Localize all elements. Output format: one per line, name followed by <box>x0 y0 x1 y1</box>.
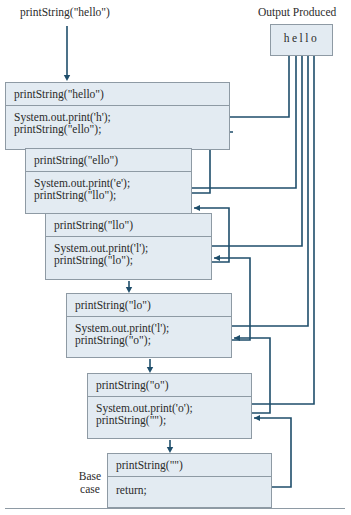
frame-line-print: System.out.print('l'); <box>67 322 231 334</box>
output-title: Output Produced <box>258 6 336 19</box>
return-wire-empty-arrowhead <box>254 415 260 421</box>
frame-line-print: System.out.print('h'); <box>6 111 229 123</box>
output-box: hello <box>270 24 333 56</box>
frame-line-recurse: printString(""); <box>88 414 251 426</box>
frame-line-recurse: printString("llo"); <box>26 189 191 201</box>
frame-header: printString("") <box>108 454 271 477</box>
frame-line-recurse: printString("lo"); <box>46 254 211 266</box>
frame-line-print: System.out.print('o'); <box>88 402 251 414</box>
call-frame-empty: printString("") return; <box>107 453 272 508</box>
frame-header: printString("ello") <box>26 149 191 172</box>
frame-header: printString("lo") <box>67 294 231 317</box>
frame-header: printString("o") <box>88 374 251 397</box>
base-case-label: Base case <box>76 470 104 496</box>
frame-line-recurse: printString("o"); <box>67 334 231 346</box>
return-wire-lo-arrowhead <box>214 255 220 261</box>
call-frame-ello: printString("ello") System.out.print('e'… <box>25 148 192 214</box>
call-frame-lo: printString("lo") System.out.print('l');… <box>66 293 232 358</box>
output-text: hello <box>271 32 332 44</box>
call-frame-llo: printString("llo") System.out.print('l')… <box>45 213 212 280</box>
call-frame-o: printString("o") System.out.print('o'); … <box>87 373 252 439</box>
call-frame-hello: printString("hello") System.out.print('h… <box>5 82 230 150</box>
initial-call-label: printString("hello") <box>20 6 110 19</box>
frame-line-print: System.out.print('l'); <box>46 242 211 254</box>
bottom-rule <box>5 508 345 509</box>
frame-header: printString("llo") <box>46 214 211 237</box>
frame-line-return: return; <box>108 484 271 496</box>
base-case-label-line2: case <box>76 483 104 496</box>
frame-header: printString("hello") <box>6 83 229 106</box>
frame-line-recurse: printString("ello"); <box>6 123 229 135</box>
frame-line-print: System.out.print('e'); <box>26 177 191 189</box>
call-arrow-initial-arrowhead <box>64 75 70 81</box>
return-wire-llo-arrowhead <box>194 205 200 211</box>
base-case-label-line1: Base <box>76 470 104 483</box>
